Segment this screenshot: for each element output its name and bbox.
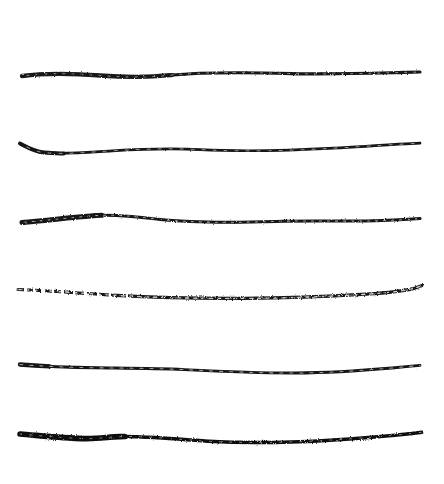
artboard <box>0 0 444 484</box>
stroke-drawing <box>0 0 444 484</box>
